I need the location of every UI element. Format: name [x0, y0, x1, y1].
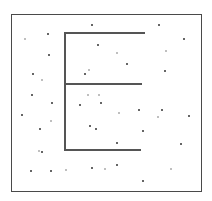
noise-dot [164, 70, 166, 72]
noise-dot [158, 24, 160, 26]
e-top-bar [64, 32, 145, 34]
noise-dot [126, 63, 128, 65]
noise-dot [50, 120, 52, 122]
noise-dot [39, 128, 41, 130]
noise-dot [98, 94, 100, 96]
noise-dot [180, 143, 182, 145]
noise-dot [91, 167, 93, 169]
noise-dot [161, 109, 163, 111]
e-bottom-bar [64, 149, 141, 151]
noise-dot [79, 104, 81, 106]
noise-dot [31, 94, 33, 96]
noise-dot [116, 52, 118, 54]
noise-dot [104, 168, 106, 170]
noise-dot [170, 168, 172, 170]
noise-dot [47, 33, 49, 35]
noise-dot [89, 125, 91, 127]
noise-dot [84, 73, 86, 75]
noise-dot [91, 24, 93, 26]
noise-dot [21, 114, 23, 116]
noise-dot [100, 102, 102, 104]
noise-dot [41, 151, 43, 153]
noise-dot [157, 116, 159, 118]
noise-dot [24, 38, 26, 40]
noise-dot [188, 115, 190, 117]
noise-dot [116, 164, 118, 166]
noise-dot [165, 50, 167, 52]
noise-dot [65, 169, 67, 171]
noise-dot [38, 150, 40, 152]
border-frame [11, 14, 202, 192]
noise-dot [142, 180, 144, 182]
noise-dot [118, 112, 120, 114]
noise-dot [183, 38, 185, 40]
noise-dot [32, 73, 34, 75]
noise-dot [51, 102, 53, 104]
e-vertical-stem [64, 32, 66, 151]
noise-dot [88, 69, 90, 71]
noise-dot [41, 79, 43, 81]
noise-dot [97, 44, 99, 46]
noise-dot [30, 170, 32, 172]
e-middle-bar [64, 83, 142, 85]
noise-dot [95, 128, 97, 130]
noise-dot [50, 170, 52, 172]
noise-dot [87, 94, 89, 96]
letter-recognition-image [0, 0, 212, 201]
noise-dot [48, 54, 50, 56]
noise-dot [116, 142, 118, 144]
noise-dot [142, 130, 144, 132]
noise-dot [138, 109, 140, 111]
